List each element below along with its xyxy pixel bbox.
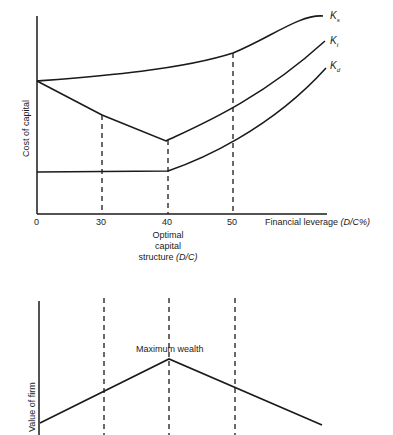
kd-curve <box>37 68 326 172</box>
tick-50: 50 <box>227 217 237 227</box>
top-y-label: Cost of capital <box>21 100 31 157</box>
optimal-annotation: Optimal capital structure (D/C) <box>138 230 198 263</box>
tick-30: 30 <box>96 217 106 227</box>
tick-40: 40 <box>162 217 172 227</box>
value-curve <box>40 359 322 425</box>
kt-label: Kt <box>330 35 338 48</box>
ks-curve <box>37 16 323 81</box>
bottom-y-label: Value of firm <box>27 382 37 432</box>
tick-0: 0 <box>34 217 39 227</box>
max-wealth-label: Maximum wealth <box>136 344 204 354</box>
kd-label: Kd <box>330 60 340 73</box>
kt-curve <box>37 41 325 141</box>
ks-label: Ks <box>330 10 340 23</box>
x-axis-label: Financial leverage (D/C%) <box>265 217 370 227</box>
